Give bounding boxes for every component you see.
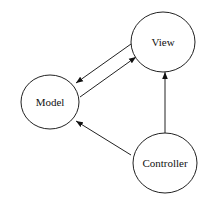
node-controller-label: Controller: [142, 157, 188, 169]
node-view: View: [131, 12, 195, 72]
node-controller: Controller: [133, 133, 197, 193]
edge-model-to-view: [80, 57, 136, 97]
mvc-diagram: Model View Controller: [0, 0, 207, 200]
edge-controller-to-model: [76, 121, 131, 155]
edge-view-to-model: [76, 44, 131, 83]
node-model-label: Model: [36, 96, 65, 108]
node-view-label: View: [151, 36, 174, 48]
node-model: Model: [21, 75, 79, 129]
